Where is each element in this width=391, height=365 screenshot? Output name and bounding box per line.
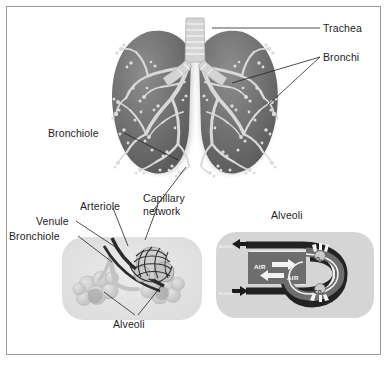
label-blood-bottom: BLOOD — [219, 288, 233, 300]
label-capillary-network-line2: network — [143, 205, 180, 218]
inset-capillary-alveoli — [62, 237, 202, 320]
respiratory-system-figure: Trachea Bronchi Bronchiole Arteriole Ven… — [0, 0, 391, 365]
label-bronchiole-lower: Bronchiole — [9, 230, 60, 242]
label-blood-top: BLOOD — [219, 241, 233, 253]
label-alveoli-lower: Alveoli — [113, 318, 145, 330]
label-trachea: Trachea — [323, 22, 362, 34]
label-venule: Venule — [36, 215, 69, 227]
label-bronchiole-upper: Bronchiole — [48, 127, 99, 139]
label-carbon-dioxide: CO₂ — [314, 286, 324, 298]
label-oxygen: O₂ — [316, 253, 322, 265]
label-capillary-network-line1: Capillary — [143, 192, 185, 205]
lung-left — [111, 31, 191, 178]
label-air-out: AIR — [287, 272, 299, 284]
label-bronchi: Bronchi — [323, 51, 359, 63]
label-air-in: AIR — [254, 261, 266, 273]
label-alveoli-inset-title: Alveoli — [271, 209, 303, 221]
lung-right — [199, 31, 279, 178]
trachea — [185, 18, 205, 62]
label-arteriole: Arteriole — [80, 200, 120, 212]
